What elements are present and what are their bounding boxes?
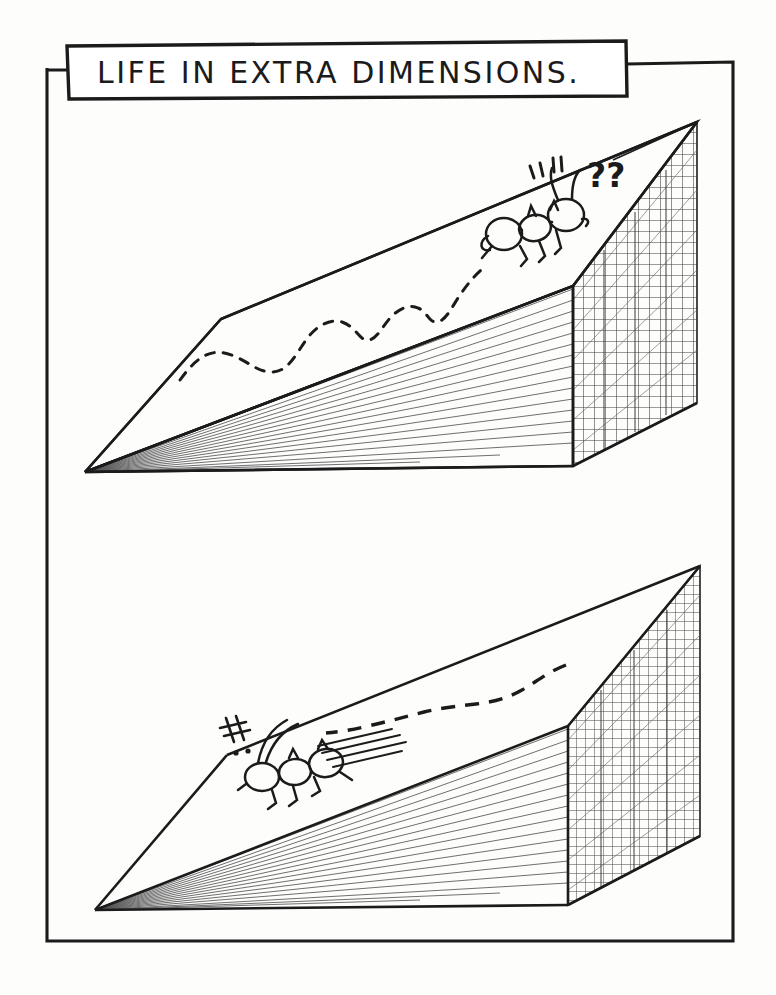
cartoon-illustration: LIFE IN EXTRA DIMENSIONS. xyxy=(0,0,776,995)
bottom-slab-grid-wall xyxy=(568,566,700,905)
paper-sheet: LIFE IN EXTRA DIMENSIONS. xyxy=(0,0,776,995)
top-panel-surprise-strokes xyxy=(530,157,562,178)
bottom-panel xyxy=(95,566,700,910)
title-label: LIFE IN EXTRA DIMENSIONS. xyxy=(97,55,580,90)
title-box: LIFE IN EXTRA DIMENSIONS. xyxy=(67,41,627,99)
top-panel: ?? xyxy=(85,122,697,472)
top-panel-question-marks: ?? xyxy=(587,156,625,195)
bottom-panel-speed-lines xyxy=(318,729,406,767)
bottom-panel-trail xyxy=(326,665,566,733)
bottom-panel-impact-marks xyxy=(220,716,251,756)
